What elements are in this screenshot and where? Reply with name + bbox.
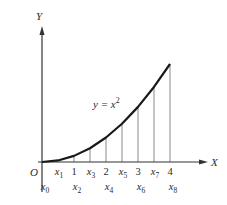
x-tick-top-5: 3 — [135, 166, 140, 177]
x-tick-top-2: x3 — [86, 166, 96, 180]
x-axis-arrow-icon — [199, 160, 208, 165]
x-tick-labels-top: x11x32x53x74 — [54, 166, 174, 180]
y-axis-arrow-icon — [40, 26, 45, 35]
partition-verticals — [58, 64, 170, 162]
x-tick-bottom-4: x8 — [168, 181, 178, 195]
x-tick-top-1: 1 — [71, 166, 76, 177]
x-tick-top-4: x5 — [118, 166, 128, 180]
x-tick-bottom-1: x2 — [72, 181, 82, 195]
origin-label: O — [30, 166, 38, 178]
x-tick-top-3: 2 — [103, 166, 108, 177]
curve-label: y = x2 — [92, 96, 120, 110]
x-tick-top-0: x1 — [54, 166, 64, 180]
x-tick-bottom-0: x0 — [40, 181, 50, 195]
x-tick-bottom-3: x6 — [136, 181, 146, 195]
x-tick-top-7: 4 — [167, 166, 173, 177]
diagram-canvas: Y X O y = x2 x11x32x53x74 x0x2x4x6x8 — [0, 0, 227, 205]
x-axis-label: X — [210, 156, 219, 168]
x-tick-labels-bottom: x0x2x4x6x8 — [40, 181, 178, 195]
y-axis-label: Y — [36, 10, 44, 22]
parabola-diagram: Y X O y = x2 x11x32x53x74 x0x2x4x6x8 — [0, 0, 227, 205]
x-tick-bottom-2: x4 — [104, 181, 114, 195]
x-tick-top-6: x7 — [150, 166, 160, 180]
